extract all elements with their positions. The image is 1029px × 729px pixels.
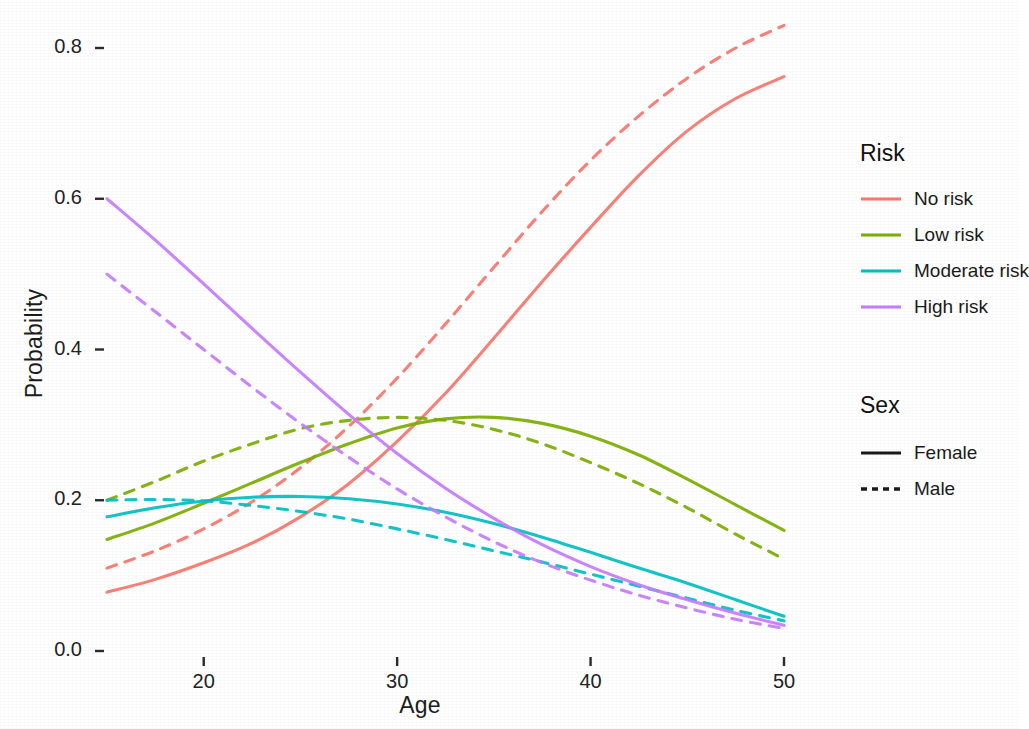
x-tick-label: 40 [561, 670, 621, 693]
legend-dashed-line-icon [860, 480, 902, 498]
y-tick-label: 0.0 [22, 638, 82, 661]
y-tick-label: 0.4 [22, 337, 82, 360]
series-line [107, 274, 784, 628]
legend-sex: Sex FemaleMale [860, 392, 1020, 507]
legend-sex-title: Sex [860, 392, 1020, 419]
series-line [107, 77, 784, 593]
legend-color-key-icon [860, 262, 902, 280]
x-axis-title: Age [340, 692, 500, 719]
legend-color-key-icon [860, 298, 902, 316]
legend-risk-label: Moderate risk [914, 260, 1029, 282]
x-tick-label: 50 [754, 670, 814, 693]
y-tick-label: 0.6 [22, 186, 82, 209]
x-tick-label: 30 [367, 670, 427, 693]
legend-sex-label: Female [914, 442, 977, 464]
x-tick-label: 20 [174, 670, 234, 693]
legend-risk-label: High risk [914, 296, 988, 318]
line-chart-canvas [0, 0, 840, 729]
y-tick-label: 0.2 [22, 487, 82, 510]
legend-sex-label: Male [914, 478, 955, 500]
legend-sex-item[interactable]: Female [860, 435, 1020, 471]
legend-risk-item[interactable]: High risk [860, 289, 1020, 325]
legend-risk-items: No riskLow riskModerate riskHigh risk [860, 181, 1020, 325]
plot-area [0, 0, 840, 729]
legend-risk-label: Low risk [914, 224, 984, 246]
legend-color-key-icon [860, 226, 902, 244]
legend-risk: Risk No riskLow riskModerate riskHigh ri… [860, 140, 1020, 325]
legend-sex-items: FemaleMale [860, 435, 1020, 507]
legend-solid-line-icon [860, 444, 902, 462]
legend-risk-title: Risk [860, 140, 1020, 167]
legend-risk-label: No risk [914, 188, 973, 210]
legend-sex-item[interactable]: Male [860, 471, 1020, 507]
series-line [107, 417, 784, 539]
y-tick-label: 0.8 [22, 35, 82, 58]
legend-risk-item[interactable]: Low risk [860, 217, 1020, 253]
legend-color-key-icon [860, 190, 902, 208]
legend-risk-item[interactable]: No risk [860, 181, 1020, 217]
legend-risk-item[interactable]: Moderate risk [860, 253, 1020, 289]
axis-ticks [95, 48, 784, 666]
